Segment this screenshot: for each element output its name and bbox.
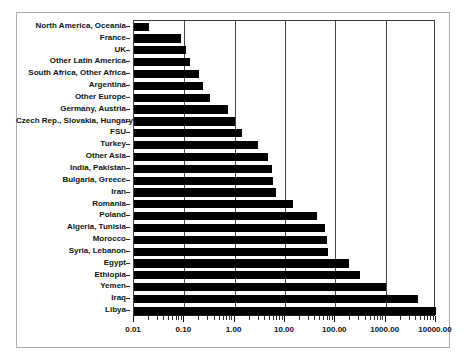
bar-row <box>134 128 434 140</box>
bar-row <box>134 234 434 246</box>
category-tick <box>126 168 130 169</box>
axis-minor-tick <box>279 316 280 320</box>
category-label: Yemen <box>16 281 126 290</box>
axis-major-tick <box>234 316 235 322</box>
category-label: Poland <box>16 210 126 219</box>
axis-minor-tick <box>172 316 173 320</box>
axis-minor-tick <box>430 316 431 320</box>
category-tick <box>126 109 130 110</box>
axis-minor-tick <box>370 316 371 320</box>
axis-minor-tick <box>181 316 182 320</box>
axis-tick-label: 10000.00 <box>418 325 451 334</box>
axis-minor-tick <box>157 316 158 320</box>
axis-minor-tick <box>223 316 224 320</box>
bar-row <box>134 45 434 57</box>
bar-row <box>134 33 434 45</box>
category-label: Libya <box>16 305 126 314</box>
bar <box>134 188 276 196</box>
bar <box>134 46 186 54</box>
axis-minor-tick <box>269 316 270 320</box>
category-label: Iran <box>16 187 126 196</box>
bar <box>134 23 149 31</box>
axis-minor-tick <box>323 316 324 320</box>
category-tick <box>126 204 130 205</box>
axis-minor-tick <box>409 316 410 320</box>
axis-major-tick <box>133 316 134 322</box>
bar-row <box>134 270 434 282</box>
axis-minor-tick <box>214 316 215 320</box>
bar <box>134 212 317 220</box>
axis-minor-tick <box>207 316 208 320</box>
axis-minor-tick <box>178 316 179 320</box>
category-axis-labels: North America, OceaniaFranceUKOther Lati… <box>16 20 130 316</box>
axis-major-tick <box>435 316 436 322</box>
category-label: Egypt <box>16 258 126 267</box>
bar-row <box>134 246 434 258</box>
category-tick <box>126 38 130 39</box>
axis-minor-tick <box>427 316 428 320</box>
bar-row <box>134 222 434 234</box>
bar-row <box>134 68 434 80</box>
bar-row <box>134 151 434 163</box>
axis-minor-tick <box>382 316 383 320</box>
axis-minor-tick <box>273 316 274 320</box>
bar-row <box>134 199 434 211</box>
axis-minor-tick <box>424 316 425 320</box>
category-tick <box>126 263 130 264</box>
axis-minor-tick <box>415 316 416 320</box>
axis-minor-tick <box>219 316 220 320</box>
bar <box>134 105 228 113</box>
category-label: North America, Oceania <box>16 21 126 30</box>
category-tick <box>126 85 130 86</box>
category-label: Algeria, Tunisia <box>16 222 126 231</box>
axis-tick-label: 0.10 <box>176 325 192 334</box>
axis-major-tick <box>183 316 184 322</box>
axis-minor-tick <box>198 316 199 320</box>
category-tick <box>126 132 130 133</box>
bar-row <box>134 163 434 175</box>
value-axis: 0.010.101.0010.00100.001000.0010000.00 <box>133 316 436 348</box>
category-tick <box>126 239 130 240</box>
axis-minor-tick <box>314 316 315 320</box>
bar-row <box>134 281 434 293</box>
category-tick <box>126 180 130 181</box>
category-tick <box>126 310 130 311</box>
bar-row <box>134 104 434 116</box>
axis-minor-tick <box>264 316 265 320</box>
chart-figure: North America, OceaniaFranceUKOther Lati… <box>0 0 464 364</box>
axis-minor-tick <box>163 316 164 320</box>
axis-major-tick <box>284 316 285 322</box>
axis-minor-tick <box>299 316 300 320</box>
bar <box>134 259 349 267</box>
axis-tick-label: 1.00 <box>226 325 242 334</box>
category-tick <box>126 61 130 62</box>
bar <box>134 82 203 90</box>
category-label: Other Latin America <box>16 56 126 65</box>
axis-minor-tick <box>420 316 421 320</box>
axis-minor-tick <box>377 316 378 320</box>
axis-minor-tick <box>226 316 227 320</box>
bar-row <box>134 21 434 33</box>
axis-major-tick <box>385 316 386 322</box>
bar <box>134 117 235 125</box>
category-label: Ethiopia <box>16 270 126 279</box>
bar-row <box>134 139 434 151</box>
axis-minor-tick <box>229 316 230 320</box>
axis-tick-label: 0.01 <box>125 325 141 334</box>
bar <box>134 153 268 161</box>
axis-minor-tick <box>358 316 359 320</box>
bar <box>134 177 273 185</box>
bar <box>134 70 199 78</box>
axis-minor-tick <box>327 316 328 320</box>
bar-row <box>134 175 434 187</box>
category-label: Iraq <box>16 293 126 302</box>
axis-minor-tick <box>148 316 149 320</box>
category-tick <box>126 50 130 51</box>
category-label: Morocco <box>16 234 126 243</box>
category-tick <box>126 144 130 145</box>
axis-minor-tick <box>380 316 381 320</box>
axis-minor-tick <box>282 316 283 320</box>
category-label: Czech Rep., Slovakia, Hungary <box>16 116 126 125</box>
axis-major-tick <box>334 316 335 322</box>
bar-rows <box>134 21 434 315</box>
